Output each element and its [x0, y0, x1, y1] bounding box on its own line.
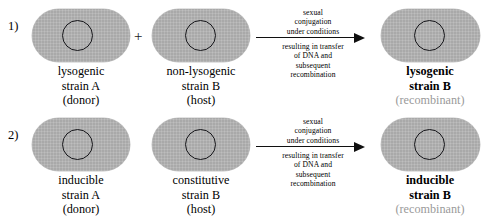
donor-cell-caption-row-1: lysogenic strain A (donor)	[14, 64, 148, 108]
arrow-head-icon	[354, 33, 365, 43]
caption-line: (recombinant)	[363, 93, 487, 108]
lysogeny-conjugation-diagram: { "diagram": { "title": "Conjugation cro…	[0, 0, 487, 218]
caption-line: inducible	[14, 173, 148, 188]
nucleoid-circle-icon	[414, 20, 445, 51]
plus-icon: +	[134, 29, 142, 44]
bacterium-shape	[152, 9, 250, 62]
donor-cell-row-2: inducible strain A (donor)	[32, 118, 130, 171]
result-cell-caption-row-1: lysogenic strain B (recombinant)	[363, 64, 487, 108]
step-number-1: 1)	[8, 20, 18, 33]
caption-line: non-lysogenic	[134, 64, 268, 79]
nucleoid-circle-icon	[62, 20, 93, 51]
caption-line: constitutive	[134, 173, 268, 188]
cross-row-1: 1) lysogenic strain A (donor) + non-lyso…	[0, 0, 487, 109]
arrow-label-line: recombination	[252, 70, 374, 79]
caption-line: inducible	[363, 173, 487, 188]
caption-line: strain B	[363, 79, 487, 94]
result-cell-row-1: lysogenic strain B (recombinant)	[381, 9, 479, 62]
nucleoid-circle-icon	[185, 20, 216, 51]
result-cell-caption-row-2: inducible strain B (recombinant)	[363, 173, 487, 217]
donor-cell-caption-row-2: inducible strain A (donor)	[14, 173, 148, 217]
arrow-shaft	[256, 146, 356, 147]
bacterium-shape	[152, 118, 250, 171]
nucleoid-circle-icon	[62, 129, 93, 160]
nucleoid-circle-icon	[185, 129, 216, 160]
cross-row-2: 2) inducible strain A (donor) constituti…	[0, 109, 487, 218]
caption-line: (donor)	[14, 93, 148, 108]
caption-line: (host)	[134, 202, 268, 217]
bacterium-shape	[381, 118, 480, 171]
bacterium-shape	[381, 9, 480, 62]
arrow-label-line: subsequent	[252, 170, 374, 179]
arrow-label-line: conjugation	[252, 126, 374, 135]
arrow-label-line: of DNA and	[252, 51, 374, 60]
result-cell-row-2: inducible strain B (recombinant)	[381, 118, 479, 171]
arrow-label-line: sexual	[252, 8, 374, 17]
conjugation-arrow-row-1: sexual conjugation under conditions resu…	[252, 4, 374, 100]
host-cell-row-1: non-lysogenic strain B (host)	[152, 9, 250, 62]
conjugation-arrow-row-2: sexual conjugation under conditions resu…	[252, 113, 374, 209]
caption-line: strain A	[14, 188, 148, 203]
caption-line: (donor)	[14, 202, 148, 217]
arrow-head-icon	[354, 142, 365, 152]
bacterium-shape	[32, 118, 130, 171]
arrow-label-line: sexual	[252, 117, 374, 126]
bacterium-shape	[32, 9, 130, 62]
arrow-label-line: subsequent	[252, 61, 374, 70]
arrow-label-below-row-1: resulting in transfer of DNA and subsequ…	[252, 42, 374, 79]
arrow-label-line: resulting in transfer	[252, 151, 374, 160]
host-cell-caption-row-2: constitutive strain B (host)	[134, 173, 268, 217]
host-cell-row-2: constitutive strain B (host)	[152, 118, 250, 171]
arrow-label-line: resulting in transfer	[252, 42, 374, 51]
arrow-label-below-row-2: resulting in transfer of DNA and subsequ…	[252, 151, 374, 188]
host-cell-caption-row-1: non-lysogenic strain B (host)	[134, 64, 268, 108]
caption-line: strain A	[14, 79, 148, 94]
arrow-label-line: of DNA and	[252, 160, 374, 169]
arrow-label-line: conjugation	[252, 17, 374, 26]
step-number-2: 2)	[8, 129, 18, 142]
caption-line: lysogenic	[363, 64, 487, 79]
donor-cell-row-1: lysogenic strain A (donor)	[32, 9, 130, 62]
caption-line: (host)	[134, 93, 268, 108]
caption-line: (recombinant)	[363, 202, 487, 217]
caption-line: strain B	[134, 79, 268, 94]
nucleoid-circle-icon	[414, 129, 445, 160]
arrow-label-line: recombination	[252, 179, 374, 188]
caption-line: lysogenic	[14, 64, 148, 79]
arrow-shaft	[256, 37, 356, 38]
caption-line: strain B	[363, 188, 487, 203]
caption-line: strain B	[134, 188, 268, 203]
